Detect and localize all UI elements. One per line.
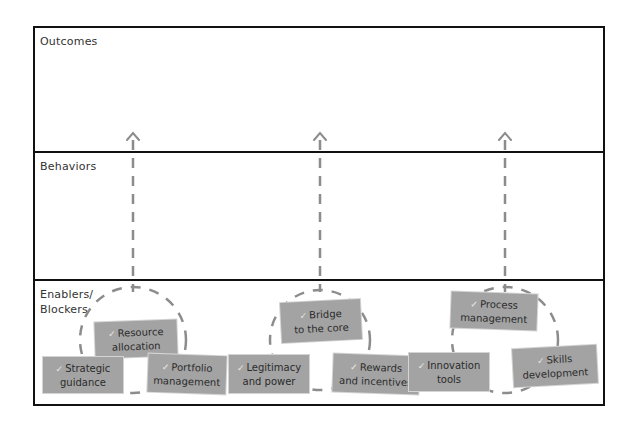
card-rewards-and-incentives: ✓Rewardsand incentives xyxy=(332,354,419,395)
check-icon: ✓ xyxy=(237,363,245,373)
check-icon: ✓ xyxy=(537,355,545,365)
check-icon: ✓ xyxy=(418,361,426,371)
row-label-outcomes: Outcomes xyxy=(40,34,98,49)
row-label-enablers: Enablers/ Blockers xyxy=(40,287,93,317)
card-portfolio-management: ✓Portfoliomanagement xyxy=(147,354,226,395)
check-icon: ✓ xyxy=(299,310,307,320)
card-skills-development: ✓Skillsdevelopment xyxy=(512,345,598,387)
card-bridge-to-the-core: ✓Bridgeto the core xyxy=(280,299,362,343)
check-icon: ✓ xyxy=(108,328,116,338)
check-icon: ✓ xyxy=(56,364,64,374)
card-resource-allocation: ✓Resourceallocation xyxy=(94,320,177,359)
card-strategic-guidance: ✓Strategicguidance xyxy=(43,357,123,393)
row-label-behaviors: Behaviors xyxy=(40,159,96,174)
check-icon: ✓ xyxy=(350,362,358,372)
row-behaviors: Behaviors xyxy=(35,151,603,279)
row-outcomes: Outcomes xyxy=(35,28,603,151)
card-process-management: ✓Processmanagement xyxy=(450,292,537,331)
card-innovation-tools: ✓Innovationtools xyxy=(409,353,489,391)
check-icon: ✓ xyxy=(470,299,478,309)
card-legitimacy-and-power: ✓Legitimacyand power xyxy=(229,355,309,393)
check-icon: ✓ xyxy=(162,362,170,372)
